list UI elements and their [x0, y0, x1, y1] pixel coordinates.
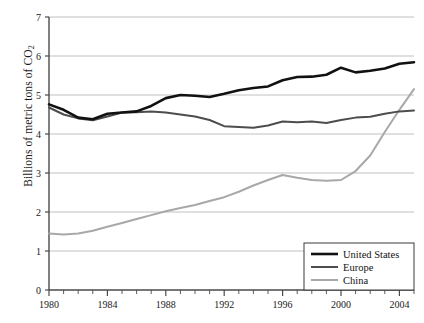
legend-label: China	[343, 275, 368, 286]
y-axis-tick-label: 1	[36, 246, 41, 257]
x-axis-tick-label: 1988	[156, 299, 176, 310]
series-line	[49, 89, 414, 234]
co2-emissions-line-chart: Billions of metric tons of CO2 012345671…	[0, 0, 424, 323]
series-line	[49, 107, 414, 127]
x-axis-tick-label: 1992	[214, 299, 234, 310]
y-axis-tick-label: 0	[36, 285, 41, 296]
series-line	[49, 62, 414, 119]
y-axis-tick-label: 7	[36, 12, 41, 23]
y-axis-tick-label: 5	[36, 90, 41, 101]
legend-label: Europe	[343, 262, 374, 273]
x-axis-tick-label: 2004	[389, 299, 409, 310]
x-axis-tick-label: 1996	[273, 299, 293, 310]
y-axis-tick-label: 3	[36, 168, 41, 179]
chart-svg: 012345671980198419881992199620002004Unit…	[0, 0, 424, 323]
x-axis-tick-label: 1980	[39, 299, 59, 310]
legend-label: United States	[343, 249, 399, 260]
x-axis-tick-label: 2000	[331, 299, 351, 310]
x-axis-tick-label: 1984	[97, 299, 117, 310]
y-axis-tick-label: 4	[36, 129, 41, 140]
y-axis-tick-label: 6	[36, 51, 41, 62]
y-axis-tick-label: 2	[36, 207, 41, 218]
